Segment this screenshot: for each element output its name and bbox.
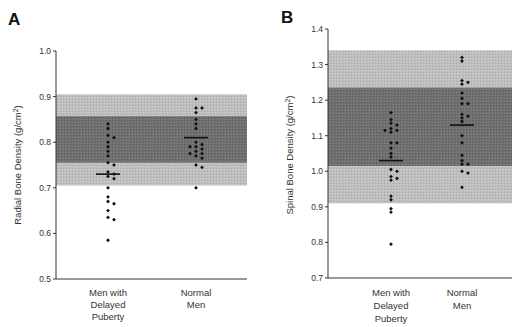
panel-a-y-axis-label: Radial Bone Density (g/cm2) [12, 105, 23, 225]
panel-a-reference-bands [56, 94, 247, 185]
bone-density-figure: A 1.00.90.80.70.60.5 Radial Bone Density… [0, 0, 519, 327]
data-point [106, 186, 110, 190]
category-label: Normal [181, 287, 212, 298]
y-tick-label: 1.4 [311, 24, 323, 34]
category-label: Men [187, 299, 205, 310]
panel-b-reference-bands [328, 50, 512, 203]
data-point [106, 238, 110, 242]
category-label: Men with [372, 287, 410, 298]
category-label: Puberty [92, 311, 125, 322]
data-point [389, 207, 393, 211]
panel-a-label: A [8, 10, 20, 29]
y-tick-label: 0.9 [311, 202, 323, 212]
data-point [112, 202, 116, 206]
y-tick-label: 0.5 [39, 274, 51, 284]
category-label: Delayed [91, 299, 126, 310]
normal-range-band-inner [328, 88, 512, 166]
panel-b-spinal-chart: B 1.41.31.21.11.00.90.80.7 Spinal Bone D… [281, 8, 512, 324]
category-label: Delayed [374, 300, 409, 311]
category-label: Normal [447, 287, 478, 298]
y-tick-label: 0.8 [39, 137, 51, 147]
y-tick-label: 0.6 [39, 228, 51, 238]
data-point [106, 209, 110, 213]
panel-b-category-labels: Men withDelayedPubertyNormalMen [372, 287, 477, 324]
category-label: Men with [89, 287, 127, 298]
y-tick-label: 0.9 [39, 92, 51, 102]
y-tick-label: 1.1 [311, 131, 323, 141]
panel-b-label: B [281, 8, 293, 27]
y-tick-label: 1.3 [311, 60, 323, 70]
panel-a-category-labels: Men withDelayedPubertyNormalMen [89, 287, 211, 322]
y-tick-label: 1.2 [311, 95, 323, 105]
data-point [389, 242, 393, 246]
y-tick-label: 1.0 [311, 166, 323, 176]
data-point [106, 195, 110, 199]
normal-range-band-inner [56, 116, 247, 163]
y-tick-label: 0.7 [311, 273, 323, 283]
data-point [194, 186, 198, 190]
data-point [112, 218, 116, 222]
y-tick-label: 0.7 [39, 183, 51, 193]
y-tick-label: 1.0 [39, 46, 51, 56]
data-point [106, 200, 110, 204]
category-label: Men [453, 300, 471, 311]
panel-a-radial-chart: A 1.00.90.80.70.60.5 Radial Bone Density… [8, 10, 247, 322]
category-label: Puberty [375, 313, 408, 324]
data-point [106, 216, 110, 220]
y-tick-label: 0.8 [311, 237, 323, 247]
panel-b-y-axis-label: Spinal Bone Density (g/cm2) [284, 95, 295, 214]
data-point [389, 210, 393, 214]
